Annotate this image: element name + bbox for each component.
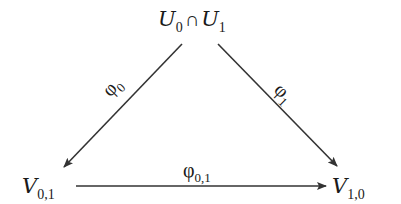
V01-symbol: V: [22, 174, 37, 198]
U1-symbol: U: [201, 7, 219, 31]
node-bottom-right: V1,0: [332, 175, 365, 202]
U0-symbol: U: [158, 7, 176, 31]
V10-symbol: V: [332, 174, 347, 198]
node-top-intersection: U0∩U1: [158, 8, 226, 35]
node-bottom-left: V0,1: [22, 175, 55, 202]
label-phi01: φ0,1: [183, 160, 211, 184]
arrow-phi0: [64, 44, 182, 167]
intersection-operator: ∩: [185, 8, 199, 30]
